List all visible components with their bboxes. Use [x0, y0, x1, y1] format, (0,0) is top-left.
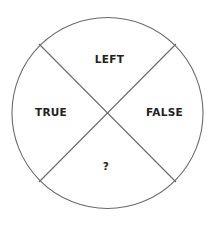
quadrant-label-top: LEFT — [95, 54, 124, 65]
quadrant-label-right: FALSE — [146, 107, 183, 118]
quadrant-label-left: TRUE — [35, 107, 67, 118]
quadrant-label-bottom: ? — [103, 160, 109, 171]
